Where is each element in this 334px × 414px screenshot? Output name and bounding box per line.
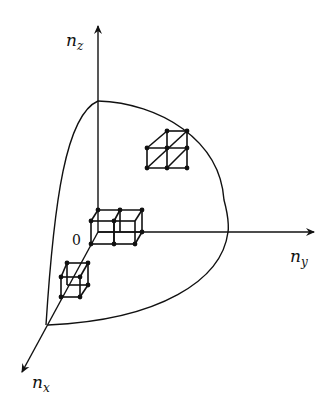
x-axis: [22, 232, 98, 372]
surface-curve-zy: [98, 101, 228, 232]
origin-label: 0: [72, 232, 81, 248]
diagram-canvas: nz ny nx 0: [0, 0, 334, 414]
y-axis-label: ny: [290, 246, 308, 269]
diagram-svg: [0, 0, 334, 414]
x-axis-label: nx: [32, 372, 50, 395]
lattice-nodes: [59, 129, 190, 300]
z-axis-label: nz: [66, 30, 83, 53]
surface-curve-zx: [46, 101, 98, 325]
